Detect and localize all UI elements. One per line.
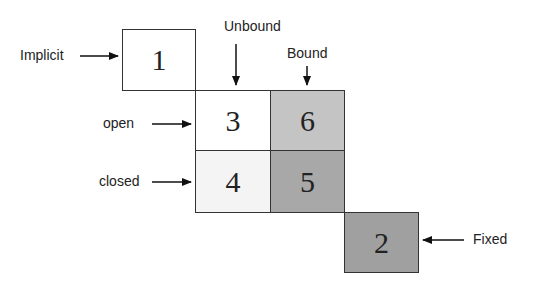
- open-label: open: [103, 115, 134, 131]
- fixed-label: Fixed: [473, 231, 507, 247]
- box-1: 1: [122, 29, 196, 91]
- box-2: 2: [344, 212, 419, 273]
- box-3: 3: [195, 90, 271, 151]
- box-6: 6: [270, 90, 345, 151]
- bound-label: Bound: [287, 45, 327, 61]
- box-5: 5: [270, 150, 345, 213]
- unbound-label: Unbound: [224, 18, 281, 34]
- closed-label: closed: [99, 173, 139, 189]
- box-4: 4: [195, 150, 271, 213]
- implicit-label: Implicit: [20, 47, 64, 63]
